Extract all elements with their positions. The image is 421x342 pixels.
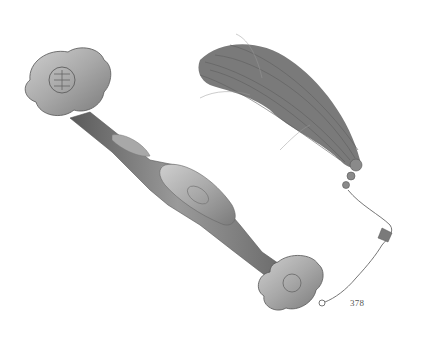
ruyi-scepter-photo xyxy=(0,0,421,342)
lot-number: 378 xyxy=(350,298,364,308)
scepter-shaft xyxy=(70,112,285,285)
scepter-head xyxy=(25,48,111,116)
